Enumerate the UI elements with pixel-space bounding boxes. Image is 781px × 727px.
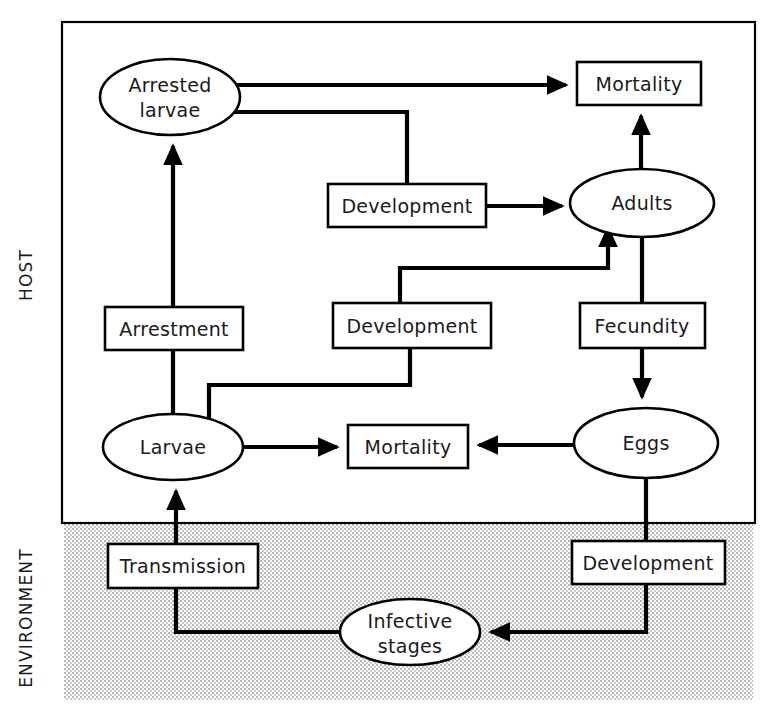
node-mortality-top[interactable]: Mortality <box>577 62 701 105</box>
region-label-layer: HOST ENVIRONMENT <box>16 249 36 688</box>
node-development-middle[interactable]: Development <box>333 303 491 348</box>
node-fecundity[interactable]: Fecundity <box>580 303 705 348</box>
node-arrested-larvae-line1: Arrested <box>128 74 211 96</box>
node-arrestment-label: Arrestment <box>119 318 229 340</box>
diagram-canvas: Arrested larvae Mortality Development Ad… <box>0 0 781 727</box>
node-infective-stages-line1: Infective <box>368 610 453 632</box>
node-arrested-larvae[interactable]: Arrested larvae <box>100 59 240 135</box>
node-larvae-label: Larvae <box>140 436 206 458</box>
node-development-lower-label: Development <box>582 552 713 574</box>
region-label-environment: ENVIRONMENT <box>16 548 36 688</box>
region-label-host: HOST <box>16 249 36 301</box>
node-adults[interactable]: Adults <box>570 169 714 237</box>
node-development-upper[interactable]: Development <box>328 184 486 227</box>
node-fecundity-label: Fecundity <box>595 315 690 337</box>
node-mortality-bottom-label: Mortality <box>365 436 452 458</box>
node-transmission-label: Transmission <box>119 555 246 577</box>
node-larvae[interactable]: Larvae <box>103 414 243 480</box>
node-mortality-bottom[interactable]: Mortality <box>348 425 468 468</box>
node-infective-stages-line2: stages <box>378 635 442 657</box>
node-transmission[interactable]: Transmission <box>108 544 258 588</box>
node-eggs-label: Eggs <box>622 432 669 454</box>
node-development-lower[interactable]: Development <box>572 541 725 584</box>
node-arrestment[interactable]: Arrestment <box>105 307 243 350</box>
node-development-upper-label: Development <box>341 195 472 217</box>
node-mortality-top-label: Mortality <box>596 73 683 95</box>
node-adults-label: Adults <box>611 192 672 214</box>
node-infective-stages[interactable]: Infective stages <box>340 599 480 665</box>
lifecycle-flow-diagram: Arrested larvae Mortality Development Ad… <box>0 0 781 727</box>
node-eggs[interactable]: Eggs <box>574 408 718 478</box>
node-development-middle-label: Development <box>346 315 477 337</box>
node-arrested-larvae-line2: larvae <box>139 99 200 121</box>
